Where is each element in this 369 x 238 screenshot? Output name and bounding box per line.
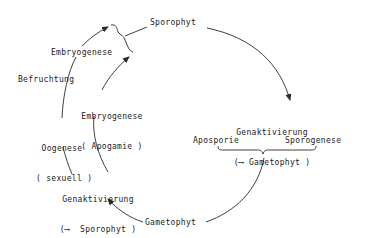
label-genaktivierung-sporophyt-line2: (⟶ Sporophyt ): [52, 225, 144, 235]
label-embryogenese-apogamie-line1: Embryogenese: [74, 112, 150, 122]
arrow-sporophyt-to-genaktivierung-gametophyt: [207, 28, 290, 100]
life-cycle-diagram: Sporophyt Embryogenese Befruchtung Embry…: [0, 0, 369, 238]
arrow-embryogenese-to-brace: [82, 27, 108, 46]
arrow-apogamie-to-brace: [102, 57, 129, 90]
label-genaktivierung-sporophyt: Genaktivierung (⟶ Sporophyt ): [52, 175, 144, 238]
brace-to-sporophyt-line: [125, 27, 147, 36]
label-befruchtung: Befruchtung: [18, 75, 74, 85]
label-genaktivierung-gametophyt-line2: (⟶ Gametophyt ): [226, 158, 318, 168]
label-genaktivierung-gametophyt: Genaktivierung (⟶ Gametophyt ): [226, 108, 318, 188]
brace-sporophyt: [111, 25, 133, 52]
label-aposporie: Aposporie: [193, 136, 239, 146]
label-oogenese-line1: Oogenese: [36, 144, 88, 154]
node-sporophyt: Sporophyt: [150, 18, 196, 28]
label-genaktivierung-sporophyt-line1: Genaktivierung: [52, 195, 144, 205]
node-gametophyt: Gametophyt: [145, 218, 196, 228]
label-embryogenese: Embryogenese: [51, 48, 112, 58]
label-sporogenese: Sporogenese: [285, 136, 341, 146]
